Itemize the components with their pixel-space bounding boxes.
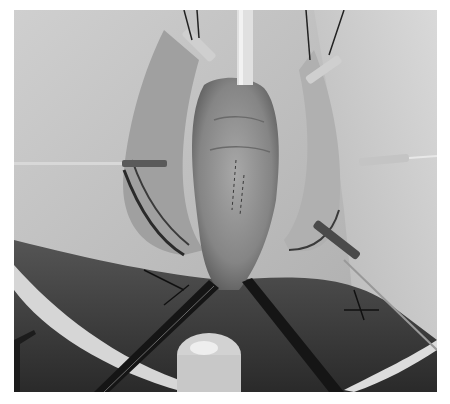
- catheter-left: [14, 162, 124, 165]
- clamp-left: [122, 160, 167, 167]
- photo-illustration: [14, 10, 437, 392]
- surgical-photograph: [14, 10, 437, 392]
